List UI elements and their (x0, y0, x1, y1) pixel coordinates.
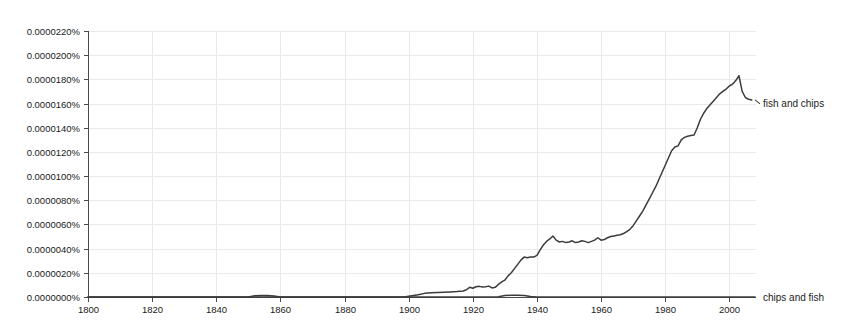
x-tick-label: 1820 (142, 304, 163, 315)
series-label-chips-and-fish: chips and fish (763, 292, 824, 303)
series-line-chips-and-fish (88, 295, 755, 297)
series-label-fish-and-chips: fish and chips (763, 98, 824, 109)
y-tick-label: 0.0000000% (27, 292, 81, 303)
y-tick-label: 0.0000160% (27, 99, 81, 110)
axis-lines (89, 31, 757, 298)
y-axis-ticks: 0.0000000%0.0000020%0.0000040%0.0000060%… (27, 26, 89, 303)
y-tick-label: 0.0000080% (27, 195, 81, 206)
x-tick-label: 1800 (78, 304, 99, 315)
x-axis-ticks: 1800182018401860188019001920194019601980… (78, 298, 740, 316)
x-tick-label: 2000 (719, 304, 740, 315)
y-tick-label: 0.0000020% (27, 268, 81, 279)
x-tick-label: 1840 (206, 304, 227, 315)
x-tick-label: 1940 (527, 304, 548, 315)
x-tick-label: 1880 (335, 304, 356, 315)
chart-canvas: 0.0000000%0.0000020%0.0000040%0.0000060%… (0, 0, 844, 331)
series-labels: fish and chipschips and fish (755, 98, 824, 302)
y-tick-label: 0.0000060% (27, 219, 81, 230)
ngram-viewer-chart: 0.0000000%0.0000020%0.0000040%0.0000060%… (0, 0, 844, 331)
y-tick-label: 0.0000100% (27, 171, 81, 182)
y-tick-label: 0.0000040% (27, 244, 81, 255)
series-line-fish-and-chips (88, 76, 752, 297)
grid-lines (88, 31, 756, 297)
y-tick-label: 0.0000140% (27, 123, 81, 134)
series-lines (88, 76, 755, 297)
y-tick-label: 0.0000200% (27, 50, 81, 61)
y-tick-label: 0.0000180% (27, 74, 81, 85)
x-tick-label: 1960 (591, 304, 612, 315)
leader-line-fish-and-chips (755, 100, 760, 104)
x-tick-label: 1980 (655, 304, 676, 315)
x-tick-label: 1900 (399, 304, 420, 315)
y-tick-label: 0.0000120% (27, 147, 81, 158)
y-tick-label: 0.0000220% (27, 26, 81, 37)
x-tick-label: 1860 (270, 304, 291, 315)
x-tick-label: 1920 (463, 304, 484, 315)
